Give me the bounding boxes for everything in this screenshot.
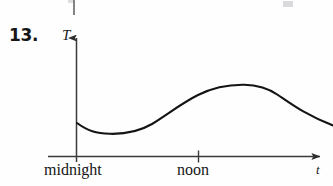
- temperature-curve: [77, 85, 333, 134]
- tick-label-midnight: midnight: [44, 162, 102, 178]
- vertical-axis-label: T: [62, 28, 70, 43]
- horizontal-axis-label: t: [316, 163, 320, 176]
- tick-label-noon: noon: [177, 162, 209, 178]
- graph-plot: [0, 0, 333, 186]
- figure-container: 13. T t midnight noon: [0, 0, 333, 186]
